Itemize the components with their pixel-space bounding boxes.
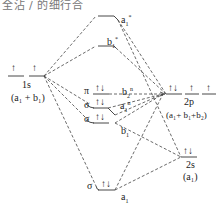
label-a1: a1 [121, 192, 128, 206]
electron-1s-a: ↑ [11, 63, 16, 73]
electrons-b1: ↑↓ [95, 112, 105, 122]
electrons-b2-n: ↑↓ [95, 83, 105, 93]
label-a1-n: a1n [120, 98, 130, 115]
electrons-2p-a: ↑↓ [168, 83, 178, 93]
electrons-a1: ↑↓ [101, 179, 111, 189]
label-pi: π [84, 86, 89, 96]
electron-2p-b: ↑ [189, 83, 194, 93]
label-sigma-a1: σ [87, 181, 92, 191]
label-2s: 2s [186, 160, 195, 170]
label-sigma-a1n: σ [84, 100, 89, 110]
label-2s-symmetry: (a₁) [183, 172, 198, 182]
electron-2p-c: ↑ [206, 83, 211, 93]
label-1s-symmetry: (a₁ + b₁) [11, 93, 45, 103]
label-b1: b1 [121, 126, 129, 140]
electrons-a1-n: ↑↓ [95, 97, 105, 107]
label-1s: 1s [22, 80, 31, 90]
electron-1s-b: ↑ [32, 63, 37, 73]
label-b1-star: b1* [107, 34, 118, 51]
mo-diagram: 全沾 / 的细行合 [0, 0, 222, 209]
electrons-2s: ↑↓ [183, 146, 193, 156]
label-sigma-b1: σ [84, 114, 89, 124]
label-2p: 2p [184, 97, 194, 107]
label-2p-symmetry: (a₁+ b₁+b₂) [166, 110, 207, 120]
label-a1-star: a1* [121, 12, 131, 29]
